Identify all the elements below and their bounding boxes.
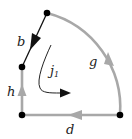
label-j: j1 — [47, 63, 59, 79]
label-b: b — [17, 34, 25, 49]
label-j-sub: 1 — [54, 70, 59, 79]
node-bottom-left — [19, 112, 26, 119]
arrow-d-icon — [68, 110, 82, 120]
label-g: g — [89, 54, 97, 69]
node-bottom-right — [117, 112, 124, 119]
node-left-middle — [19, 64, 26, 71]
contour-diagram: b h d g j1 — [0, 0, 132, 139]
arrow-j1-icon — [60, 89, 71, 98]
node-top — [44, 10, 51, 17]
label-j-main: j — [47, 63, 54, 78]
arrow-b-icon — [30, 33, 41, 50]
label-d: d — [66, 122, 74, 137]
arrow-h-icon — [18, 84, 27, 96]
label-h: h — [7, 84, 15, 99]
